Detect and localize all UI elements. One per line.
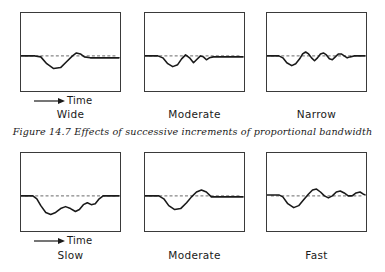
waveform-plot-wide (21, 13, 120, 91)
waveform-panel-slow (20, 152, 121, 232)
time-axis-label: Time (67, 94, 92, 107)
waveform-panel-moderate-bandwidth (144, 12, 245, 92)
panel-label-wide: Wide (20, 108, 121, 120)
panel-label-fast: Fast (266, 249, 367, 261)
figure-caption: Figure 14.7 Effects of successive increm… (0, 126, 385, 137)
waveform-plot-moderate-speed (145, 153, 244, 231)
time-axis-top: Time (34, 94, 124, 108)
waveform-plot-narrow (267, 13, 366, 91)
right-arrow-icon (34, 237, 66, 245)
time-axis-label: Time (67, 234, 92, 247)
waveform-panel-narrow (266, 12, 367, 92)
waveform-panel-moderate-speed (144, 152, 245, 232)
waveform-trace (267, 52, 365, 66)
panel-label-moderate-speed: Moderate (144, 249, 245, 261)
panel-label-moderate-bandwidth: Moderate (144, 108, 245, 120)
waveform-trace (21, 196, 119, 215)
waveform-trace (145, 55, 243, 67)
panel-row-bottom (0, 152, 385, 234)
waveform-plot-slow (21, 153, 120, 231)
waveform-trace (21, 53, 119, 69)
waveform-plot-moderate-bandwidth (145, 13, 244, 91)
waveform-trace (267, 189, 365, 208)
waveform-panel-wide (20, 12, 121, 92)
panel-label-slow: Slow (20, 249, 121, 261)
right-arrow-icon (34, 97, 66, 105)
time-axis-bottom: Time (34, 234, 124, 248)
panel-label-narrow: Narrow (266, 108, 367, 120)
waveform-plot-fast (267, 153, 366, 231)
figure-container: Time Wide Moderate Narrow Figure 14.7 Ef… (0, 0, 385, 272)
panel-row-top (0, 12, 385, 94)
waveform-panel-fast (266, 152, 367, 232)
waveform-trace (145, 190, 243, 210)
